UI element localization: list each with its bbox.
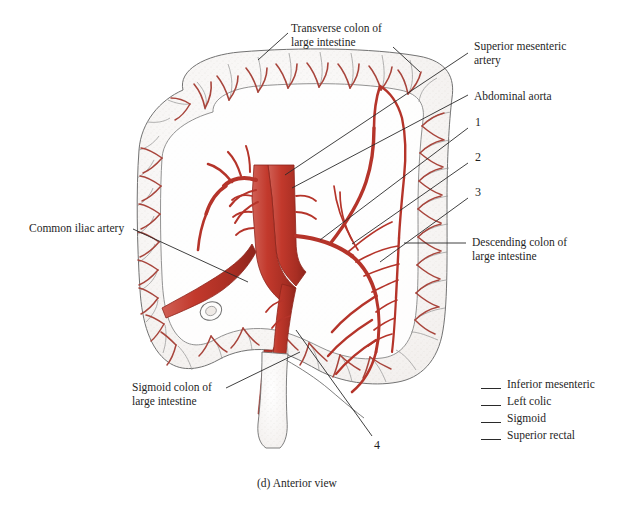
- legend-blank-line-icon: [481, 422, 501, 423]
- label-abdominal-aorta: Abdominal aorta: [474, 90, 552, 104]
- legend-item-left-colic: Left colic: [481, 393, 595, 410]
- figure-caption: (d) Anterior view: [257, 477, 337, 489]
- label-common-iliac-artery: Common iliac artery: [29, 222, 124, 236]
- callout-4: 4: [374, 438, 380, 453]
- legend-label: Inferior mesenteric: [507, 376, 595, 393]
- legend-label: Sigmoid: [507, 410, 546, 427]
- legend: Inferior mesenteric Left colic Sigmoid S…: [481, 376, 595, 444]
- callout-3: 3: [475, 185, 481, 200]
- legend-item-sigmoid: Sigmoid: [481, 410, 595, 427]
- callout-1: 1: [475, 115, 481, 130]
- label-transverse-colon: Transverse colon of large intestine: [291, 22, 382, 49]
- legend-blank-line-icon: [481, 405, 501, 406]
- label-superior-mesenteric-artery: Superior mesenteric artery: [474, 40, 566, 67]
- label-sigmoid-colon: Sigmoid colon of large intestine: [132, 381, 212, 408]
- label-descending-colon: Descending colon of large intestine: [472, 236, 567, 263]
- legend-label: Superior rectal: [507, 427, 575, 444]
- legend-blank-line-icon: [481, 439, 501, 440]
- callout-2: 2: [475, 150, 481, 165]
- legend-item-superior-rectal: Superior rectal: [481, 427, 595, 444]
- legend-label: Left colic: [507, 393, 551, 410]
- legend-blank-line-icon: [481, 388, 501, 389]
- legend-item-inferior-mesenteric: Inferior mesenteric: [481, 376, 595, 393]
- figure-canvas: Transverse colon of large intestine Supe…: [0, 0, 623, 516]
